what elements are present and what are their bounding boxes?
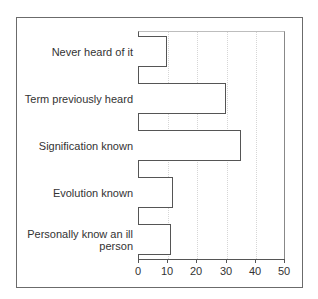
category-label: Personally know an ill person bbox=[23, 224, 133, 255]
x-tick bbox=[167, 259, 168, 263]
x-tick bbox=[196, 259, 197, 263]
category-label: Term previously heard bbox=[8, 83, 133, 114]
bar-personally-know bbox=[138, 224, 171, 255]
category-label: Evolution known bbox=[8, 177, 133, 208]
bar-evolution-known bbox=[138, 177, 173, 208]
category-label: Never heard of it bbox=[8, 36, 133, 67]
x-tick-label: 10 bbox=[152, 265, 182, 277]
x-tick bbox=[284, 259, 285, 263]
category-label: Signification known bbox=[8, 130, 133, 161]
bar-never-heard bbox=[138, 36, 167, 67]
x-tick-label: 50 bbox=[269, 265, 299, 277]
x-tick-label: 30 bbox=[211, 265, 241, 277]
x-tick-label: 40 bbox=[240, 265, 270, 277]
bar-signification-known bbox=[138, 130, 241, 161]
x-tick-label: 0 bbox=[123, 265, 153, 277]
gridline bbox=[256, 32, 257, 259]
x-axis bbox=[138, 259, 285, 260]
x-tick bbox=[138, 259, 139, 263]
x-tick bbox=[255, 259, 256, 263]
x-tick-label: 20 bbox=[181, 265, 211, 277]
bar-term-previously-heard bbox=[138, 83, 226, 114]
x-tick bbox=[226, 259, 227, 263]
